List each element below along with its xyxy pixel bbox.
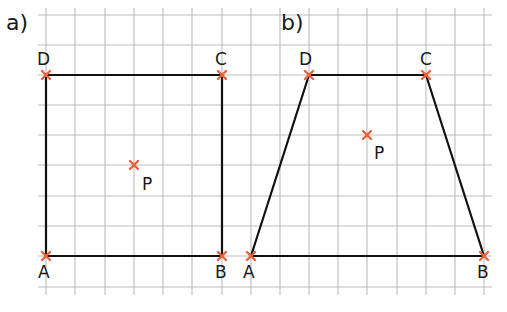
figure-a-vertex-b-label: B: [215, 264, 227, 281]
figure-b-label: b): [281, 12, 304, 34]
figure-b-vertex-d-label: D: [299, 51, 312, 68]
figure-a-vertex-a-label: A: [38, 264, 50, 281]
figure-a-label: a): [6, 12, 28, 34]
figure-b-vertex-a-label: A: [243, 264, 255, 281]
figure-b-point-p-label: P: [374, 145, 384, 162]
figure-b-vertex-c-label: C: [420, 51, 432, 68]
figure-b-vertex-b-label: B: [477, 264, 489, 281]
figure-a-vertex-c-label: C: [215, 51, 227, 68]
figure-a-vertex-d-label: D: [37, 51, 50, 68]
figure-a-point-p-label: P: [142, 176, 152, 193]
